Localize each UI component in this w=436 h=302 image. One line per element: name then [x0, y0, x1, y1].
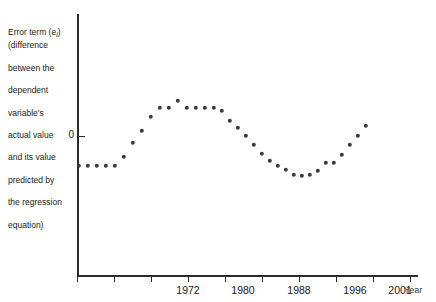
y-axis-label-line-4: dependent: [8, 85, 48, 95]
data-point: [203, 106, 207, 110]
data-point: [149, 115, 153, 119]
data-point: [113, 164, 117, 168]
y-axis-zero-label: 0: [60, 129, 74, 140]
x-axis-tick-label: 1972: [176, 284, 199, 296]
data-point: [260, 152, 264, 156]
x-axis-tick: [373, 276, 374, 282]
data-point: [340, 153, 344, 157]
x-axis-tick-label: 1996: [343, 284, 366, 296]
y-axis-zero-tick: [78, 136, 85, 137]
data-point: [364, 124, 368, 128]
x-axis-tick: [336, 276, 337, 282]
y-axis-label-line-10: equation): [8, 220, 43, 230]
x-axis-line: [77, 275, 418, 277]
data-point: [252, 143, 256, 147]
y-axis-label: Error term (ei) (difference between the …: [8, 16, 74, 231]
x-axis-tick: [151, 276, 152, 282]
error-term-scatter-chart: Error term (ei) (difference between the …: [0, 0, 436, 302]
data-point: [300, 174, 304, 178]
data-point: [122, 155, 126, 159]
data-point: [158, 106, 162, 110]
y-axis-label-line-9: the regression: [8, 197, 62, 207]
data-point: [104, 164, 108, 168]
y-axis-line: [77, 14, 79, 276]
data-point: [131, 141, 135, 145]
data-point: [332, 161, 336, 165]
data-point: [292, 173, 296, 177]
data-point: [194, 106, 198, 110]
data-point: [324, 161, 328, 165]
x-axis-tick: [225, 276, 226, 282]
data-point: [236, 126, 240, 130]
data-point: [140, 129, 144, 133]
x-axis-tick: [188, 276, 189, 282]
data-point: [276, 164, 280, 168]
data-point: [176, 99, 180, 103]
x-axis-tick-label: 1988: [287, 284, 310, 296]
data-point: [356, 134, 360, 138]
x-axis-tick: [114, 276, 115, 282]
data-point: [212, 106, 216, 110]
x-axis-tick: [77, 276, 78, 282]
data-point: [86, 164, 90, 168]
y-axis-label-line-6: actual value: [8, 130, 53, 140]
data-point: [268, 159, 272, 163]
x-axis-title: Year: [404, 285, 422, 295]
x-axis-tick: [410, 276, 411, 282]
data-point: [308, 173, 312, 177]
data-point: [228, 119, 232, 123]
y-axis-label-line-8: predicted by: [8, 175, 54, 185]
y-axis-label-line-5: variable's: [8, 108, 44, 118]
x-axis-tick: [299, 276, 300, 282]
data-point: [77, 164, 81, 168]
y-axis-label-line-1: Error term (e: [8, 27, 56, 37]
data-point: [244, 134, 248, 138]
data-point: [220, 109, 224, 113]
data-point: [348, 143, 352, 147]
x-axis-tick-label: 1980: [231, 284, 254, 296]
y-axis-label-line-3: between the: [8, 63, 54, 73]
data-point: [284, 168, 288, 172]
data-point: [167, 106, 171, 110]
x-axis-tick: [262, 276, 263, 282]
data-point: [185, 106, 189, 110]
data-point: [95, 164, 99, 168]
y-axis-label-line-7: and its value: [8, 152, 56, 162]
data-point: [316, 169, 320, 173]
